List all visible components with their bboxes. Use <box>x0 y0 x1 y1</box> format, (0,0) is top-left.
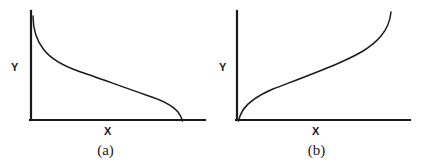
x-axis-label-b: X <box>312 126 319 137</box>
x-axis-label-a: X <box>104 126 111 137</box>
figure-canvas: Y X (a) Y X (b) <box>0 0 422 168</box>
y-axis-label-a: Y <box>11 62 18 73</box>
curve-b <box>239 12 392 121</box>
curve-a <box>33 16 183 121</box>
panel-a: Y X (a) <box>0 0 211 168</box>
y-axis-label-b: Y <box>219 62 226 73</box>
panel-b: Y X (b) <box>211 0 422 168</box>
panel-caption-b: (b) <box>211 142 422 159</box>
panel-caption-a: (a) <box>0 142 211 159</box>
